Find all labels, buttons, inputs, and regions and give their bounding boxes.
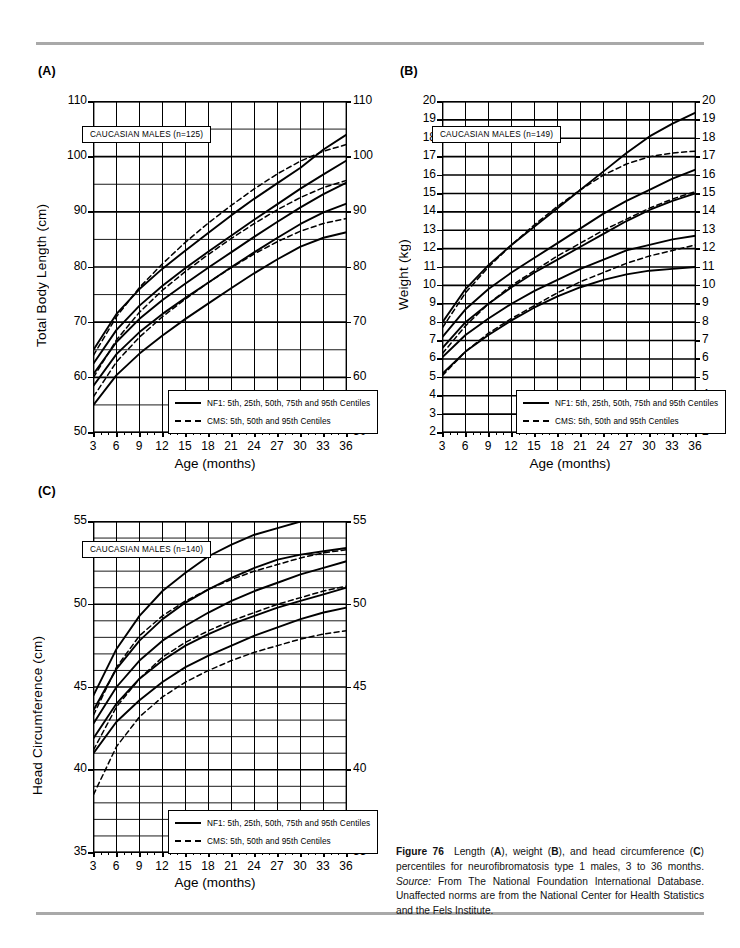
panel-c-plot-area bbox=[93, 521, 347, 853]
a-chart-svg bbox=[93, 101, 347, 433]
x-axis-minor-tick bbox=[154, 432, 155, 435]
x-axis-minor-tick bbox=[93, 432, 94, 435]
legend-label-cms: CMS: 5th, 50th and 95th Centiles bbox=[555, 417, 679, 426]
panel-b-legend: NF1: 5th, 25th, 50th, 75th and 95th Cent… bbox=[516, 390, 726, 434]
dashed-line-key-icon bbox=[175, 420, 201, 422]
y-axis-tick-label-right: 45 bbox=[353, 680, 379, 692]
y-axis-tick-mark bbox=[346, 377, 351, 379]
y-axis-tick-label-left: 9 bbox=[410, 296, 436, 308]
y-axis-tick-label-right: 40 bbox=[353, 762, 379, 774]
panel-c-y-axis-label: Head Circumference (cm) bbox=[30, 580, 48, 850]
y-axis-tick-label-right: 18 bbox=[702, 131, 728, 143]
y-axis-tick-label-left: 50 bbox=[61, 597, 87, 609]
panel-a-x-axis-label: Age (months) bbox=[115, 456, 315, 471]
y-axis-tick-mark bbox=[695, 230, 700, 232]
y-axis-tick-mark bbox=[437, 395, 442, 397]
dashed-line-key-icon bbox=[523, 420, 549, 422]
y-axis-tick-label-left: 100 bbox=[61, 149, 87, 161]
y-axis-tick-label-right: 110 bbox=[353, 94, 379, 106]
legend-label-cms: CMS: 5th, 50th and 95th Centiles bbox=[207, 837, 331, 846]
y-axis-tick-label-left: 8 bbox=[410, 315, 436, 327]
y-axis-tick-label-left: 70 bbox=[61, 315, 87, 327]
b-chart-svg bbox=[442, 101, 696, 433]
y-axis-tick-label-left: 40 bbox=[61, 762, 87, 774]
y-axis-tick-label-left: 5 bbox=[410, 370, 436, 382]
y-axis-tick-mark bbox=[88, 211, 93, 213]
y-axis-tick-mark bbox=[437, 211, 442, 213]
legend-row-nf1: NF1: 5th, 25th, 50th, 75th and 95th Cent… bbox=[523, 396, 718, 410]
y-axis-tick-label-right: 55 bbox=[353, 514, 379, 526]
x-axis-minor-tick bbox=[93, 852, 94, 855]
panel-a-label: (A) bbox=[38, 64, 56, 78]
x-axis-minor-tick bbox=[116, 432, 117, 435]
y-axis-tick-mark bbox=[695, 267, 700, 269]
panel-a-plot-area bbox=[93, 101, 347, 433]
y-axis-tick-mark bbox=[346, 211, 351, 213]
y-axis-tick-label-left: 10 bbox=[410, 278, 436, 290]
x-axis-minor-tick bbox=[124, 852, 125, 855]
series-line bbox=[94, 588, 347, 739]
y-axis-tick-mark bbox=[695, 175, 700, 177]
y-axis-tick-mark bbox=[695, 248, 700, 250]
y-axis-tick-label-right: 12 bbox=[702, 241, 728, 253]
y-axis-tick-label-right: 70 bbox=[353, 315, 379, 327]
figure-caption: Figure 76 Length (A), weight (B), and he… bbox=[396, 845, 704, 919]
y-axis-tick-mark bbox=[88, 687, 93, 689]
y-axis-tick-label-right: 14 bbox=[702, 204, 728, 216]
y-axis-tick-label-left: 19 bbox=[410, 112, 436, 124]
x-axis-minor-tick bbox=[101, 432, 102, 435]
y-axis-tick-label-right: 7 bbox=[702, 333, 728, 345]
x-axis-minor-tick bbox=[450, 432, 451, 435]
legend-row-nf1: NF1: 5th, 25th, 50th, 75th and 95th Cent… bbox=[175, 396, 370, 410]
series-line bbox=[94, 550, 347, 716]
series-line bbox=[94, 135, 347, 350]
x-axis-minor-tick bbox=[154, 852, 155, 855]
y-axis-tick-mark bbox=[695, 101, 700, 103]
y-axis-tick-label-left: 17 bbox=[410, 149, 436, 161]
y-axis-tick-mark bbox=[695, 322, 700, 324]
y-axis-tick-mark bbox=[695, 138, 700, 140]
y-axis-tick-label-right: 16 bbox=[702, 168, 728, 180]
y-axis-tick-mark bbox=[695, 340, 700, 342]
y-axis-tick-mark bbox=[88, 521, 93, 523]
x-axis-minor-tick bbox=[101, 852, 102, 855]
series-line bbox=[94, 232, 347, 405]
y-axis-tick-mark bbox=[695, 285, 700, 287]
y-axis-tick-label-left: 90 bbox=[61, 204, 87, 216]
panel-c-legend: NF1: 5th, 25th, 50th, 75th and 95th Cent… bbox=[168, 810, 378, 854]
y-axis-tick-label-left: 6 bbox=[410, 351, 436, 363]
panel-a-sample-size-box: CAUCASIAN MALES (n=125) bbox=[82, 126, 211, 143]
y-axis-tick-label-left: 12 bbox=[410, 241, 436, 253]
y-axis-tick-mark bbox=[695, 119, 700, 121]
panel-c-sample-size-box: CAUCASIAN MALES (n=140) bbox=[82, 541, 211, 558]
y-axis-tick-mark bbox=[437, 322, 442, 324]
y-axis-tick-label-right: 5 bbox=[702, 370, 728, 382]
series-line bbox=[94, 561, 347, 723]
series-line bbox=[94, 180, 347, 377]
y-axis-tick-mark bbox=[88, 604, 93, 606]
y-axis-tick-mark bbox=[437, 285, 442, 287]
y-axis-tick-label-left: 80 bbox=[61, 260, 87, 272]
legend-row-cms: CMS: 5th, 50th and 95th Centiles bbox=[175, 834, 370, 848]
panel-b-x-axis-label: Age (months) bbox=[470, 456, 670, 471]
y-axis-tick-label-right: 60 bbox=[353, 370, 379, 382]
x-axis-minor-tick bbox=[147, 852, 148, 855]
y-axis-tick-mark bbox=[437, 230, 442, 232]
x-axis-minor-tick bbox=[139, 432, 140, 435]
y-axis-tick-label-left: 3 bbox=[410, 407, 436, 419]
y-axis-tick-mark bbox=[437, 248, 442, 250]
series-line bbox=[94, 586, 347, 750]
y-axis-tick-label-left: 7 bbox=[410, 333, 436, 345]
y-axis-tick-label-right: 17 bbox=[702, 149, 728, 161]
y-axis-tick-mark bbox=[346, 769, 351, 771]
y-axis-tick-label-right: 19 bbox=[702, 112, 728, 124]
y-axis-tick-mark bbox=[437, 193, 442, 195]
panel-a-legend: NF1: 5th, 25th, 50th, 75th and 95th Cent… bbox=[168, 390, 378, 434]
y-axis-tick-label-left: 110 bbox=[61, 94, 87, 106]
x-axis-minor-tick bbox=[488, 432, 489, 435]
y-axis-tick-mark bbox=[346, 156, 351, 158]
y-axis-tick-mark bbox=[437, 156, 442, 158]
y-axis-tick-mark bbox=[346, 101, 351, 103]
solid-line-key-icon bbox=[175, 822, 201, 824]
y-axis-tick-label-right: 90 bbox=[353, 204, 379, 216]
